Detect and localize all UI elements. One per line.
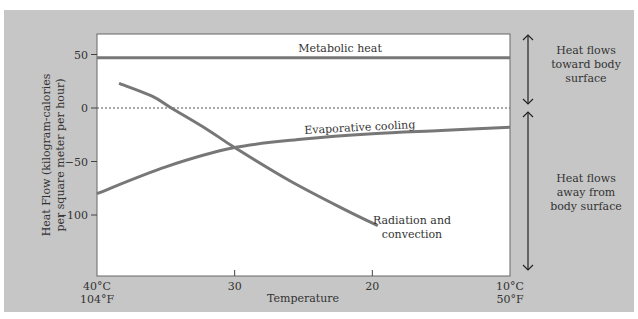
annotation-line: away from [536,186,636,200]
y-tick-label: 0 [81,102,88,115]
y-tick-label: 50 [74,49,88,62]
radiation-label-line2: convection [382,228,442,241]
x-tick-sublabel: 104°F [80,293,114,306]
y-tick-label: −50 [65,156,88,169]
x-tick-label: 20 [365,280,379,293]
toward-surface-annotation: Heat flows toward body surface [536,44,636,86]
toward-surface-arrow-icon [523,35,533,104]
annotation-line: toward body [536,58,636,72]
x-tick-label: 10°C [496,280,524,293]
radiation-label-line1: Radiation and [373,214,451,227]
x-axis-label: Temperature [267,292,339,305]
y-axis-label-line2: per square meter per hour) [54,78,67,231]
y-axis-label-line1: Heat Flow (kilogram-calories [40,73,53,236]
away-from-surface-annotation: Heat flows away from body surface [536,172,636,214]
annotation-line: Heat flows [536,172,636,186]
x-tick-sublabel: 50°F [496,293,523,306]
x-tick-label: 40°C [83,280,111,293]
plot-area [97,34,510,276]
metabolic-heat-label: Metabolic heat [298,42,382,55]
annotation-line: Heat flows [536,44,636,58]
annotation-line: surface [536,72,636,86]
away-from-surface-arrow-icon [523,112,533,270]
annotation-line: body surface [536,200,636,214]
x-tick-label: 30 [228,280,242,293]
